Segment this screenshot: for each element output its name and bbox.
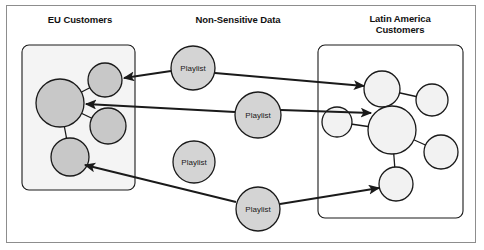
playlist-node-label: Playlist — [245, 205, 271, 214]
diagram-root: EU Customers Non-Sensitive Data Latin Am… — [0, 0, 484, 250]
playlist-node-label: Playlist — [181, 158, 207, 167]
customer-node-la-n2[interactable] — [416, 84, 448, 116]
customer-node-eu-n4[interactable] — [51, 138, 89, 176]
customer-node-la-n5[interactable] — [424, 135, 458, 169]
customer-node-eu-n3[interactable] — [90, 108, 126, 144]
customer-node-la-n6[interactable] — [379, 167, 413, 201]
playlist-node-label: Playlist — [180, 64, 206, 73]
customer-node-la-n4[interactable] — [368, 106, 416, 154]
playlist-node-label: Playlist — [245, 111, 271, 120]
customer-node-la-n1[interactable] — [364, 71, 400, 107]
diagram-canvas: PlaylistPlaylistPlaylistPlaylist — [0, 0, 484, 250]
customer-node-eu-n2[interactable] — [36, 79, 84, 127]
customer-node-eu-n1[interactable] — [88, 63, 122, 97]
